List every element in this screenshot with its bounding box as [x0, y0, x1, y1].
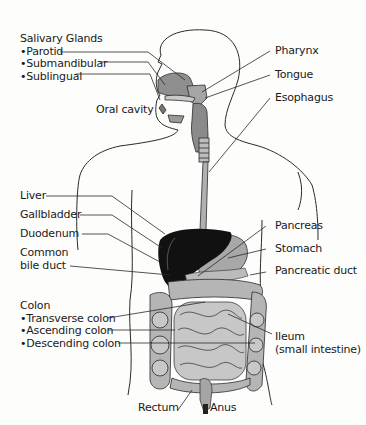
label-anus: Anus	[210, 402, 236, 415]
label-gallbladder: Gallbladder	[20, 209, 81, 222]
label-common-bile-duct: Common bile duct	[20, 247, 68, 272]
label-submandibular: •Submandibular	[20, 58, 107, 71]
label-pancreas: Pancreas	[275, 220, 323, 233]
label-pharynx: Pharynx	[275, 45, 318, 58]
esophagus-shape	[191, 103, 209, 230]
small-intestine-shape	[174, 302, 246, 380]
label-descending-colon: •Descending colon	[20, 338, 121, 351]
label-colon: Colon •Transverse colon •Ascending colon…	[20, 300, 121, 350]
label-oral-cavity: Oral cavity	[96, 104, 153, 117]
label-sublingual: •Sublingual	[20, 71, 107, 84]
label-pancreatic-duct: Pancreatic duct	[275, 265, 357, 278]
label-duodenum: Duodenum	[20, 228, 79, 241]
label-ascending-colon: •Ascending colon	[20, 325, 121, 338]
label-stomach: Stomach	[275, 243, 322, 256]
label-tongue: Tongue	[275, 69, 313, 82]
label-salivary-glands: Salivary Glands •Parotid •Submandibular …	[20, 33, 107, 83]
label-esophagus: Esophagus	[275, 92, 333, 105]
label-liver: Liver	[20, 190, 46, 203]
label-rectum: Rectum	[138, 402, 179, 415]
label-ileum: Ileum (small intestine)	[275, 331, 361, 356]
colon-heading: Colon	[20, 300, 121, 313]
salivary-heading: Salivary Glands	[20, 33, 107, 46]
